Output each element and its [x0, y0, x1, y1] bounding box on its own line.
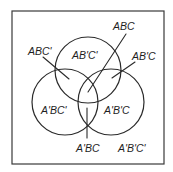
label-a-prime-b-prime-c-prime: A'B'C'	[117, 142, 147, 154]
venn-diagram: ABC' AB'C' ABC AB'C A'BC' A'B'C A'BC A'B…	[0, 0, 173, 172]
label-ab-prime-c-prime: AB'C'	[71, 49, 99, 61]
circle-a	[55, 37, 121, 103]
label-a-prime-bc: A'BC	[75, 142, 100, 154]
label-a-prime-bc-prime: A'BC'	[40, 104, 68, 116]
label-a-prime-b-prime-c: A'B'C	[103, 104, 130, 116]
label-abc-prime: ABC'	[27, 45, 53, 57]
label-abc: ABC	[112, 20, 135, 32]
circle-c	[78, 69, 144, 135]
label-ab-prime-c: AB'C	[131, 50, 156, 62]
